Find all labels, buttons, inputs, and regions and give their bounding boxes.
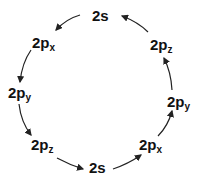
arrow-2px-to-2py (20, 50, 31, 82)
node-right-2px: 2px (139, 137, 162, 157)
node-left-2pz: 2pz (31, 137, 54, 157)
arrow-2pz-to-2s (57, 158, 83, 169)
arrow-2s-to-2px (56, 15, 80, 30)
node-right-2py: 2py (167, 94, 190, 114)
arrow-2py-to-2pz-right (164, 58, 172, 90)
arrow-2pz-to-2s-right (122, 16, 148, 32)
node-left-2px: 2px (32, 35, 55, 55)
node-left-2py: 2py (8, 85, 31, 105)
arrow-2py-to-2pz (19, 104, 31, 135)
node-bottom-2s: 2s (89, 160, 106, 180)
node-right-2pz: 2pz (150, 37, 173, 57)
arrow-2px-to-2py-right (158, 111, 172, 136)
node-top-2s: 2s (92, 8, 109, 28)
arrow-2s-to-2px-right (113, 155, 141, 169)
